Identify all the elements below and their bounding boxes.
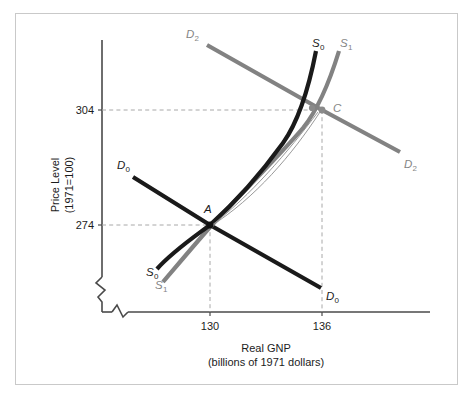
curve-label-s1-bottom-sub: 1 (163, 285, 167, 294)
curve-label-s0-top-letter: S (312, 37, 320, 49)
curve-label-d2-top: D2 (186, 28, 199, 42)
point-label-c: C (333, 102, 341, 116)
point-c-marker (319, 107, 326, 114)
curve-label-d2-right-sub: 2 (413, 164, 417, 173)
x-tick-label-130: 130 (185, 320, 235, 332)
x-axis-title: Real GNP (billions of 1971 dollars) (156, 341, 376, 370)
y-axis-title: Price Level (1971=100) (48, 125, 76, 245)
curve-label-d2-top-sub: 2 (195, 34, 199, 43)
curve-label-d0-left-sub: 0 (126, 165, 130, 174)
curve-demand-0 (133, 177, 321, 288)
curve-label-d2-right: D2 (404, 158, 417, 172)
curve-label-d0-left-letter: D (117, 159, 125, 171)
figure-root: 304 274 130 136 Price Level (1971=100) R… (0, 0, 473, 400)
y-tick-label-304: 304 (52, 104, 94, 116)
x-axis-break-mark (112, 305, 128, 317)
curve-label-s1-bottom-letter: S (155, 279, 163, 291)
curve-label-s0-bottom-letter: S (146, 266, 154, 278)
point-a-marker (207, 222, 214, 229)
x-axis-title-line2: (billions of 1971 dollars) (156, 355, 376, 369)
curve-label-s1-top-sub: 1 (348, 43, 352, 52)
curve-label-s1-top-letter: S (340, 37, 348, 49)
curve-label-d0-right: D0 (326, 290, 339, 304)
curve-label-d2-top-letter: D (186, 28, 194, 40)
curve-label-s1-bottom: S1 (155, 279, 167, 293)
curve-label-s0-bottom: S0 (146, 266, 158, 280)
curve-label-s1-top: S1 (340, 37, 352, 51)
curve-label-s0-top: S0 (312, 37, 324, 51)
y-axis-break-mark (96, 277, 105, 312)
curve-label-d0-left: D0 (117, 159, 130, 173)
x-tick-label-136: 136 (297, 320, 347, 332)
curve-supply-0 (157, 51, 316, 269)
curve-label-d0-right-letter: D (326, 290, 334, 302)
y-axis-title-line1: Price Level (48, 125, 62, 245)
x-axis-title-line1: Real GNP (156, 341, 376, 355)
y-axis-title-line2: (1971=100) (62, 125, 76, 245)
point-c-marker-gray (309, 105, 315, 111)
point-label-a: A (204, 203, 212, 217)
curve-label-d0-right-sub: 0 (335, 296, 339, 305)
curve-label-d2-right-letter: D (404, 158, 412, 170)
curve-label-s0-top-sub: 0 (320, 43, 324, 52)
